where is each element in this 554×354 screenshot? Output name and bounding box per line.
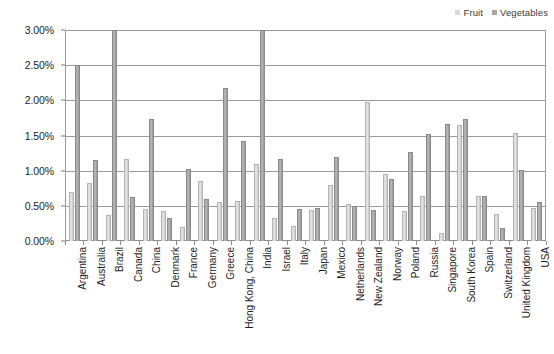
x-axis-label-cell: Germany — [195, 247, 214, 352]
bar-fruit — [143, 209, 148, 241]
bar-fruit — [272, 218, 277, 241]
bar-vegetables — [315, 208, 320, 241]
bar-vegetables — [352, 206, 357, 241]
bar-vegetables — [463, 119, 468, 241]
bar-group — [417, 30, 436, 241]
x-axis-tick-mark — [102, 241, 121, 246]
y-axis-tick-label: 2.00% — [2, 94, 54, 106]
y-axis-tick-label: 2.50% — [2, 59, 54, 71]
bar-fruit — [235, 201, 240, 241]
y-axis-tick-label: 0.00% — [2, 235, 54, 247]
bar-group — [121, 30, 140, 241]
bar-fruit — [291, 226, 296, 241]
bar-group — [158, 30, 177, 241]
bar-group — [84, 30, 103, 241]
bar-group — [102, 30, 121, 241]
bar-vegetables — [371, 210, 376, 241]
legend-label-vegetables: Vegetables — [500, 7, 548, 18]
x-axis-tick-mark — [491, 241, 510, 246]
bar-fruit — [161, 211, 166, 241]
bar-vegetables — [130, 197, 135, 241]
x-axis-tick-mark — [250, 241, 269, 246]
x-axis-label-cell: Italy — [287, 247, 306, 352]
x-axis-tick-mark — [121, 241, 140, 246]
bar-vegetables — [204, 199, 209, 241]
x-axis-tick-mark — [213, 241, 232, 246]
bar-fruit — [254, 164, 259, 241]
bar-fruit — [494, 214, 499, 241]
bar-group — [472, 30, 491, 241]
bar-group — [361, 30, 380, 241]
bar-vegetables — [426, 134, 431, 241]
y-axis-tick-label: 1.50% — [2, 130, 54, 142]
bar-group — [65, 30, 84, 241]
x-axis-tick-mark — [158, 241, 177, 246]
x-axis-label-cell: Mexico — [324, 247, 343, 352]
x-axis-tick-mark — [139, 241, 158, 246]
legend-label-fruit: Fruit — [463, 7, 483, 18]
bar-group — [380, 30, 399, 241]
x-axis-label-cell: Spain — [472, 247, 491, 352]
bar-fruit — [439, 233, 444, 241]
legend-swatch-vegetables — [492, 10, 497, 15]
x-axis-tick-mark — [269, 241, 288, 246]
x-axis-tick-mark — [472, 241, 491, 246]
bar-vegetables — [112, 30, 117, 241]
bar-fruit — [420, 196, 425, 241]
x-axis-tick-mark — [324, 241, 343, 246]
bar-vegetables — [482, 196, 487, 241]
bar-group — [528, 30, 547, 241]
x-axis-label-cell: Australia — [84, 247, 103, 352]
bar-fruit — [513, 133, 518, 241]
bar-vegetables — [260, 30, 265, 241]
x-axis-label-cell: France — [176, 247, 195, 352]
bar-vegetables — [537, 202, 542, 241]
bar-group — [343, 30, 362, 241]
bar-vegetables — [223, 88, 228, 241]
bar-fruit — [476, 196, 481, 241]
x-axis-label-cell: Russia — [417, 247, 436, 352]
bar-group — [435, 30, 454, 241]
bar-fruit — [365, 102, 370, 241]
legend-entry-vegetables: Vegetables — [492, 7, 548, 18]
x-axis-label-cell: Poland — [398, 247, 417, 352]
bar-group — [454, 30, 473, 241]
legend-entry-fruit: Fruit — [455, 7, 483, 18]
bar-group — [491, 30, 510, 241]
x-axis-tick-mark — [398, 241, 417, 246]
bar-group — [250, 30, 269, 241]
x-axis-ticks — [65, 241, 546, 246]
x-axis-tick-mark — [361, 241, 380, 246]
x-axis-tick-mark — [306, 241, 325, 246]
bar-series-container — [65, 30, 546, 241]
x-axis-label-cell: United Kingdom — [509, 247, 528, 352]
x-axis-label-cell: Brazil — [102, 247, 121, 352]
x-axis-label-cell: Hong Kong, China — [232, 247, 251, 352]
x-axis-label-cell: Japan — [306, 247, 325, 352]
plot-area — [65, 30, 546, 241]
x-axis-label-cell: India — [250, 247, 269, 352]
bar-vegetables — [167, 218, 172, 241]
bar-group — [398, 30, 417, 241]
x-axis-label-cell: USA — [528, 247, 547, 352]
x-axis-label-cell: Netherlands — [343, 247, 362, 352]
x-axis-label-cell: Norway — [380, 247, 399, 352]
bar-vegetables — [334, 157, 339, 241]
bar-group — [195, 30, 214, 241]
bar-vegetables — [93, 160, 98, 241]
bar-group — [232, 30, 251, 241]
x-axis-tick-mark — [454, 241, 473, 246]
legend-swatch-fruit — [455, 10, 460, 15]
x-axis-label-cell: Israel — [269, 247, 288, 352]
x-axis-tick-label: USA — [541, 247, 551, 268]
bar-group — [176, 30, 195, 241]
bar-fruit — [531, 208, 536, 241]
x-axis-label-cell: Argentina — [65, 247, 84, 352]
bar-vegetables — [389, 179, 394, 241]
bar-vegetables — [519, 170, 524, 241]
bar-fruit — [402, 211, 407, 241]
bar-fruit — [69, 192, 74, 241]
bar-group — [139, 30, 158, 241]
x-axis-tick-mark — [195, 241, 214, 246]
bar-fruit — [217, 202, 222, 241]
